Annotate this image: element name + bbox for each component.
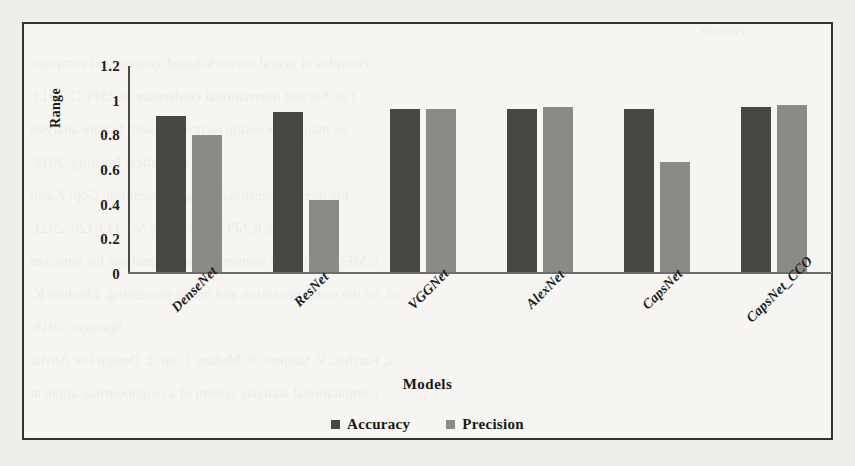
- chart-frame: Range 1.210.80.60.40.20 DenseNetResNetVG…: [22, 22, 833, 440]
- legend-swatch-icon: [446, 420, 455, 429]
- bar-accuracy-vggnet[interactable]: [390, 109, 420, 272]
- plot-area: [128, 66, 832, 274]
- x-tick-cell: DenseNet: [130, 276, 247, 376]
- bar-accuracy-resnet[interactable]: [273, 112, 303, 272]
- bar-group: [247, 66, 364, 272]
- x-axis-title: Models: [24, 376, 831, 393]
- y-tick-label: 0.2: [100, 231, 120, 248]
- y-tick-label: 1: [112, 92, 120, 109]
- bar-precision-alexnet[interactable]: [543, 107, 573, 272]
- y-tick-label: 0: [112, 266, 120, 283]
- x-tick-label-resnet: ResNet: [291, 269, 332, 310]
- bar-group: [481, 66, 598, 272]
- bar-precision-capsnet_cco[interactable]: [777, 105, 807, 272]
- x-tick-cell: CapsNet_CCO: [715, 276, 832, 376]
- bar-precision-vggnet[interactable]: [426, 109, 456, 272]
- bar-precision-densenet[interactable]: [192, 135, 222, 272]
- bar-precision-capsnet[interactable]: [660, 162, 690, 272]
- bar-precision-resnet[interactable]: [309, 200, 339, 272]
- y-tick-label: 1.2: [100, 58, 120, 75]
- bar-group: [130, 66, 247, 272]
- bar-accuracy-capsnet[interactable]: [624, 109, 654, 272]
- chart-legend: AccuracyPrecision: [24, 416, 831, 433]
- bar-group: [598, 66, 715, 272]
- bar-group: [715, 66, 832, 272]
- bar-accuracy-densenet[interactable]: [156, 116, 186, 272]
- bar-groups: [130, 66, 832, 272]
- x-tick-cell: AlexNet: [481, 276, 598, 376]
- x-tick-cell: CapsNet: [598, 276, 715, 376]
- x-axis-tick-labels: DenseNetResNetVGGNetAlexNetCapsNetCapsNe…: [130, 276, 832, 376]
- y-axis-tick-labels: 1.210.80.60.40.20: [54, 56, 120, 284]
- y-tick-label: 0.8: [100, 127, 120, 144]
- bar-accuracy-alexnet[interactable]: [507, 109, 537, 272]
- bar-accuracy-capsnet_cco[interactable]: [741, 107, 771, 272]
- y-tick-label: 0.4: [100, 196, 120, 213]
- x-axis-line: [128, 272, 832, 274]
- legend-item-accuracy[interactable]: Accuracy: [331, 416, 410, 433]
- legend-label: Precision: [462, 416, 524, 433]
- legend-swatch-icon: [331, 420, 340, 429]
- legend-item-precision[interactable]: Precision: [446, 416, 524, 433]
- x-tick-cell: ResNet: [247, 276, 364, 376]
- x-tick-cell: VGGNet: [364, 276, 481, 376]
- y-tick-label: 0.6: [100, 162, 120, 179]
- bar-group: [364, 66, 481, 272]
- legend-label: Accuracy: [347, 416, 410, 433]
